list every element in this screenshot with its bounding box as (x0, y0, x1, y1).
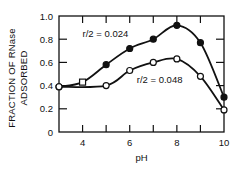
y-tick-label: 0.4 (40, 80, 53, 91)
chart: 4681000.20.40.60.81.0pHr/2 = 0.024r/2 = … (0, 0, 237, 170)
x-tick-label: 6 (127, 137, 132, 148)
data-point-filled (197, 40, 203, 46)
series-annotation: r/2 = 0.048 (137, 74, 183, 85)
y-axis-label: FRACTION OF RNase ADSORBED (6, 28, 30, 127)
y-tick-label: 0.2 (40, 103, 53, 114)
data-point-open (150, 59, 156, 65)
data-point-open (56, 84, 62, 90)
y-tick-label: 1.0 (40, 11, 53, 22)
data-point-open (103, 83, 109, 89)
data-point-filled (103, 62, 109, 68)
data-point-filled (221, 94, 227, 100)
y-axis-label-line1: FRACTION OF RNase (6, 28, 18, 127)
data-point-open (221, 107, 227, 113)
data-point-open (174, 56, 180, 62)
x-axis-label: pH (135, 152, 147, 163)
data-point-square (80, 79, 86, 85)
data-point-open (197, 73, 203, 79)
x-tick-label: 8 (174, 137, 179, 148)
x-tick-label: 10 (219, 137, 230, 148)
y-tick-label: 0.8 (40, 34, 53, 45)
y-axis-label-line2: ADSORBED (18, 28, 30, 127)
data-point-filled (150, 36, 156, 42)
data-point-open (127, 68, 133, 74)
y-tick-label: 0 (48, 127, 53, 138)
series-annotation: r/2 = 0.024 (83, 28, 129, 39)
y-tick-label: 0.6 (40, 57, 53, 68)
data-point-filled (127, 45, 133, 51)
x-tick-label: 4 (80, 137, 85, 148)
data-point-filled (174, 22, 180, 28)
